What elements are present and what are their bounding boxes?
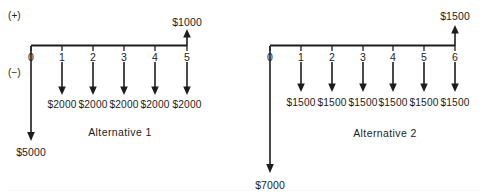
annual-arrow-alt1-3	[120, 62, 128, 95]
tick-label-alt2-0: 0	[267, 52, 273, 63]
annual-amount-alt2-6: $1500	[441, 98, 470, 108]
tick-label-alt2-1: 1	[298, 52, 304, 63]
annual-arrow-alt2-6	[451, 62, 459, 92]
annual-amount-alt2-3: $1500	[349, 98, 378, 108]
tick-label-alt2-4: 4	[390, 52, 396, 63]
tick-label-alt1-2: 2	[90, 52, 96, 63]
annual-arrow-alt1-2	[89, 62, 97, 95]
salvage-arrow-alt1	[183, 29, 191, 46]
annual-arrow-alt2-2	[328, 62, 336, 92]
annual-amount-alt2-5: $1500	[410, 98, 439, 108]
annual-amount-alt1-4: $2000	[141, 100, 170, 110]
tick-label-alt2-6: 6	[452, 52, 458, 63]
tick-label-alt1-4: 4	[152, 52, 158, 63]
annual-amount-alt2-4: $1500	[379, 98, 408, 108]
annual-amount-alt1-5: $2000	[173, 100, 202, 110]
annual-arrow-alt1-4	[151, 62, 159, 95]
positive-sign-label: (+)	[8, 11, 21, 21]
tick-label-alt1-5: 5	[184, 52, 190, 63]
tick-label-alt2-3: 3	[360, 52, 366, 63]
annual-arrow-alt2-4	[389, 62, 397, 92]
negative-sign-label: (−)	[8, 68, 21, 78]
annual-amount-alt1-3: $2000	[110, 100, 139, 110]
salvage-amount-alt2: $1500	[440, 11, 470, 22]
initial-cost-amount-alt1: $5000	[16, 147, 46, 158]
tick-label-alt1-3: 3	[121, 52, 127, 63]
caption-alternative-1: Alternative 1	[88, 127, 152, 138]
annual-arrow-alt2-3	[359, 62, 367, 92]
bottom-rule	[4, 190, 482, 191]
annual-arrow-alt2-1	[297, 62, 305, 92]
annual-amount-alt1-1: $2000	[48, 100, 77, 110]
tick-label-alt2-2: 2	[329, 52, 335, 63]
salvage-amount-alt1: $1000	[172, 17, 202, 28]
caption-alternative-2: Alternative 2	[353, 128, 417, 139]
annual-amount-alt2-2: $1500	[318, 98, 347, 108]
alternative-1-graphics	[27, 29, 191, 141]
salvage-arrow-alt2	[451, 25, 459, 46]
initial-cost-arrow-alt2	[266, 46, 274, 173]
annual-amount-alt1-2: $2000	[79, 100, 108, 110]
cash-flow-figure: (+) (−) $1000 0 1 2 3 4 5 $2000 $2000 $2…	[0, 0, 486, 196]
annual-arrow-alt1-5	[183, 62, 191, 95]
annual-arrow-alt2-5	[420, 62, 428, 92]
initial-cost-amount-alt2: $7000	[255, 180, 285, 191]
tick-label-alt1-0: 0	[28, 52, 34, 63]
annual-amount-alt2-1: $1500	[287, 98, 316, 108]
annual-arrow-alt1-1	[58, 62, 66, 95]
tick-label-alt1-1: 1	[59, 52, 65, 63]
tick-label-alt2-5: 5	[421, 52, 427, 63]
